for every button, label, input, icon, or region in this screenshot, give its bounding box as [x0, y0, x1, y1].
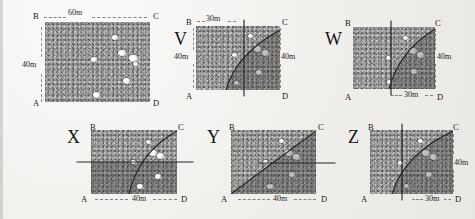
option-X-corner-C: C: [178, 123, 184, 132]
sheep-marker: [403, 36, 408, 40]
left-dim-line-bottom: [41, 74, 42, 102]
Y-bottom-dim-line-right: [294, 199, 316, 200]
sheep-marker: [112, 35, 118, 40]
main-left-dimension: 40m: [22, 61, 36, 69]
sheep-marker: [155, 174, 161, 179]
sheep-marker: [157, 153, 164, 159]
sheep-marker: [137, 184, 143, 189]
W-bottom-dim-line-right: [425, 95, 433, 96]
option-W-corner-B: B: [345, 19, 351, 28]
option-label-V: V: [174, 30, 187, 48]
sheep-marker: [91, 57, 97, 62]
sheep-marker: [387, 80, 392, 84]
main-top-dimension: 60m: [68, 9, 82, 17]
option-X-corner-B: B: [90, 123, 96, 132]
Z-right-dim-line-bottom: [453, 170, 454, 192]
sheep-marker: [254, 46, 261, 52]
option-W-boundary-curve: [353, 27, 435, 89]
Z-bottom-dim-line-left: [412, 199, 423, 200]
option-V-corner-D: D: [282, 92, 288, 101]
option-W-field-area: [353, 27, 435, 89]
W-right-dim-line-top: [435, 29, 436, 50]
sheep-marker: [404, 184, 409, 188]
sheep-marker: [262, 50, 269, 56]
W-right-dim-line-bottom: [435, 64, 436, 88]
sheep-marker: [149, 150, 157, 156]
option-Y-field-area: [231, 130, 316, 194]
V-top-dim-line-right: [228, 21, 236, 22]
option-Y-corner-C: C: [318, 123, 324, 132]
Y-bottom-dim-line-left: [238, 199, 270, 200]
sheep-marker: [285, 150, 293, 156]
option-V-top-dimension: 30m: [206, 15, 220, 23]
sheep-marker: [418, 139, 423, 143]
Z-bottom-dim-line-right: [444, 199, 451, 200]
option-X-corner-A: A: [81, 195, 87, 204]
option-Z-right-dimension: 40m: [454, 159, 468, 167]
sheep-marker: [267, 184, 274, 189]
sheep-marker: [409, 48, 417, 54]
X-bottom-dim-line-right: [153, 199, 177, 200]
sheep-marker: [131, 160, 136, 164]
sheep-marker: [279, 139, 284, 143]
option-X-corner-D: D: [181, 195, 187, 204]
sheep-marker: [234, 81, 239, 85]
option-Y-bottom-dimension: 40m: [273, 195, 287, 203]
sheep-marker: [398, 161, 403, 165]
option-Z-boundary-curve: [370, 130, 453, 194]
option-X-diagram[interactable]: X B C A D 40m: [55, 110, 205, 219]
left-dim-line-top: [41, 27, 42, 57]
option-Z-corner-D: D: [455, 195, 461, 204]
sheep-marker: [93, 92, 100, 98]
sheep-marker: [411, 69, 417, 74]
option-W-corner-C: C: [435, 19, 441, 28]
sheep-marker: [289, 172, 295, 177]
option-V-field-area: [196, 26, 280, 90]
option-Z-field-area: [370, 130, 453, 194]
sheep-marker: [232, 53, 237, 57]
V-top-dim-line-left: [197, 21, 205, 22]
top-dim-line-right: [92, 17, 147, 18]
V-left-dim-line-top: [193, 28, 194, 50]
option-V-corner-A: A: [186, 92, 192, 101]
sheep-marker: [256, 70, 262, 75]
sheep-marker: [123, 78, 130, 84]
X-bottom-dim-line-left: [95, 199, 128, 200]
option-W-corner-A: A: [345, 93, 351, 102]
main-corner-A: A: [33, 99, 39, 108]
option-Z-corner-B: B: [368, 123, 374, 132]
option-W-diagram[interactable]: W B C A D 40m 30m: [325, 0, 475, 110]
sheep-marker: [133, 62, 138, 66]
option-label-Z: Z: [348, 128, 359, 146]
main-corner-D: D: [153, 99, 159, 108]
option-V-corner-B: B: [186, 18, 192, 27]
top-dim-line-left: [44, 17, 66, 18]
option-W-bottom-dimension: 30m: [404, 91, 418, 99]
option-label-W: W: [325, 30, 342, 48]
V-right-dim-line-top: [280, 28, 281, 50]
option-Y-corner-A: A: [221, 195, 227, 204]
option-Z-diagram[interactable]: Z B C A D 40m 30m: [340, 110, 475, 219]
option-Z-corner-C: C: [453, 123, 459, 132]
sheep-marker: [422, 150, 430, 156]
main-field-diagram: 60m 40m B C A D: [0, 0, 170, 110]
sheep-marker: [146, 140, 151, 144]
sheep-marker: [386, 56, 391, 60]
option-X-bottom-dimension: 40m: [132, 195, 146, 203]
option-V-diagram[interactable]: V 30m 40m 40m B C A D: [170, 0, 325, 110]
V-right-dim-line-bottom: [280, 64, 281, 88]
option-Y-diagram[interactable]: Y B C A D 40m: [200, 110, 340, 219]
main-corner-B: B: [33, 12, 39, 21]
sheep-marker: [263, 160, 268, 164]
option-V-left-dimension: 40m: [174, 53, 188, 61]
option-Y-corner-B: B: [229, 123, 235, 132]
sheep-marker: [293, 154, 300, 160]
option-V-right-dimension: 40m: [281, 53, 295, 61]
option-V-corner-C: C: [282, 18, 288, 27]
main-corner-C: C: [153, 12, 159, 21]
sheep-marker: [417, 52, 424, 58]
option-label-Y: Y: [207, 128, 220, 146]
Z-right-dim-line-top: [453, 134, 454, 154]
sheep-marker: [129, 55, 138, 62]
option-X-shaded-region: [91, 162, 177, 194]
